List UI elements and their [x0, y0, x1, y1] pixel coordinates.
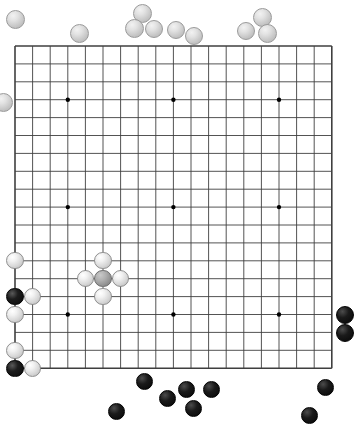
star-point — [277, 98, 281, 102]
go-game-scene — [0, 0, 357, 430]
star-point — [171, 312, 175, 316]
captured-black-stone — [336, 324, 354, 342]
star-point — [66, 312, 70, 316]
board-stone-gray[interactable] — [94, 270, 111, 287]
captured-white-stone — [145, 20, 163, 38]
captured-black-stone — [185, 400, 202, 417]
go-board[interactable] — [0, 0, 357, 430]
star-point — [171, 98, 175, 102]
captured-black-stone — [136, 373, 153, 390]
captured-white-stone — [6, 10, 25, 29]
board-stone-white[interactable] — [6, 342, 23, 359]
captured-black-stone — [317, 379, 334, 396]
board-stone-white[interactable] — [6, 306, 23, 323]
board-stone-white[interactable] — [94, 288, 111, 305]
captured-white-stone — [125, 19, 144, 38]
captured-black-stone — [108, 403, 125, 420]
captured-black-stone — [159, 390, 176, 407]
star-point — [277, 312, 281, 316]
board-stone-black[interactable] — [6, 360, 23, 377]
captured-white-stone — [258, 24, 277, 43]
star-point — [66, 98, 70, 102]
captured-black-stone — [301, 407, 318, 424]
star-point — [171, 205, 175, 209]
board-stone-white[interactable] — [24, 360, 41, 377]
captured-white-stone — [167, 21, 185, 39]
captured-white-stone — [237, 22, 255, 40]
board-stone-white[interactable] — [6, 252, 23, 269]
star-point — [66, 205, 70, 209]
captured-black-stone — [336, 306, 354, 324]
captured-white-stone — [185, 27, 203, 45]
board-stone-white[interactable] — [94, 252, 111, 269]
star-point — [277, 205, 281, 209]
captured-black-stone — [203, 381, 220, 398]
captured-white-stone — [70, 24, 89, 43]
captured-black-stone — [178, 381, 195, 398]
captured-white-stone — [0, 93, 13, 112]
board-stone-black[interactable] — [6, 288, 23, 305]
